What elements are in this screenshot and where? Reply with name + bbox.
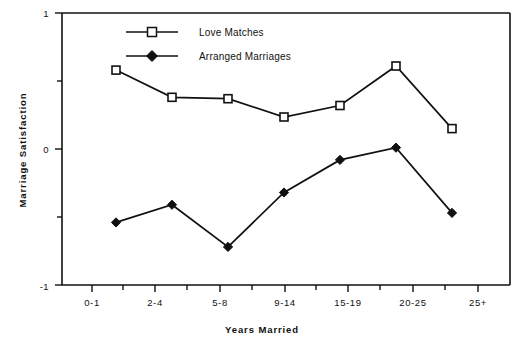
y-axis-title: Marriage Satisfaction bbox=[17, 93, 28, 208]
data-point-filled-diamond-icon[interactable] bbox=[335, 155, 344, 164]
x-tick-label: 20-25 bbox=[399, 297, 426, 308]
x-tick-label: 5-8 bbox=[212, 297, 228, 308]
y-tick-label-min: -1 bbox=[40, 281, 49, 292]
chart-container: 1 0 -1 0-1 2-4 5-8 9-14 15-19 20-25 bbox=[0, 0, 524, 345]
line-chart: 1 0 -1 0-1 2-4 5-8 9-14 15-19 20-25 bbox=[0, 0, 524, 345]
series-arranged-marriages bbox=[111, 143, 456, 251]
y-axis-ticks bbox=[55, 13, 62, 285]
data-point-open-square-icon[interactable] bbox=[112, 66, 120, 74]
x-tick-label: 25+ bbox=[469, 297, 487, 308]
series-love-matches bbox=[112, 62, 456, 133]
data-point-filled-diamond-icon[interactable] bbox=[111, 218, 120, 227]
x-tick-labels: 0-1 2-4 5-8 9-14 15-19 20-25 25+ bbox=[84, 297, 487, 308]
x-tick-label: 2-4 bbox=[147, 297, 163, 308]
legend-label: Love Matches bbox=[199, 27, 264, 38]
x-tick-label: 9-14 bbox=[274, 297, 295, 308]
filled-diamond-icon bbox=[147, 51, 158, 62]
data-point-open-square-icon[interactable] bbox=[336, 102, 344, 110]
data-point-open-square-icon[interactable] bbox=[448, 125, 456, 133]
y-tick-label-zero: 0 bbox=[43, 144, 49, 155]
legend-label: Arranged Marriages bbox=[199, 51, 291, 62]
legend: Love Matches Arranged Marriages bbox=[126, 27, 291, 62]
open-square-icon bbox=[148, 28, 157, 37]
legend-entry-arranged-marriages[interactable]: Arranged Marriages bbox=[126, 51, 291, 63]
legend-entry-love-matches[interactable]: Love Matches bbox=[126, 27, 264, 38]
x-tick-label: 15-19 bbox=[334, 297, 361, 308]
data-point-open-square-icon[interactable] bbox=[280, 113, 288, 121]
x-axis-title: Years Married bbox=[225, 324, 299, 335]
series-layer bbox=[111, 62, 456, 252]
x-axis-ticks bbox=[92, 285, 478, 292]
data-point-open-square-icon[interactable] bbox=[168, 93, 176, 101]
data-point-open-square-icon[interactable] bbox=[224, 95, 232, 103]
data-point-open-square-icon[interactable] bbox=[392, 62, 400, 70]
y-tick-label-max: 1 bbox=[43, 8, 49, 19]
x-tick-label: 0-1 bbox=[84, 297, 100, 308]
